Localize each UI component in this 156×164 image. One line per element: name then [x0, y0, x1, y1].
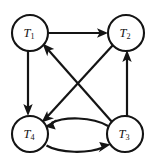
edge-t1-to-t2 [48, 28, 108, 37]
edge-t3-to-t1-line [48, 49, 113, 122]
node-t2[interactable]: T2 [108, 15, 144, 51]
node-t4-subscript: 4 [30, 133, 34, 142]
edge-t4-to-t3-curve [47, 146, 104, 152]
edge-t4-to-t3 [47, 142, 111, 152]
node-t1-subscript: 1 [30, 32, 34, 41]
edge-t3-to-t4-curve [52, 118, 109, 126]
edge-t2-to-t4-line [47, 45, 113, 117]
node-t3[interactable]: T3 [107, 116, 143, 152]
node-t1[interactable]: T1 [12, 15, 48, 51]
graph-svg-canvas: T1 T2 T3 T4 [0, 0, 156, 164]
edge-t3-to-t4 [45, 118, 109, 129]
node-t3-subscript: 3 [125, 133, 129, 142]
node-t2-subscript: 2 [126, 32, 130, 41]
edge-t3-to-t2 [122, 50, 131, 116]
edge-t1-to-t4 [23, 51, 32, 116]
node-t4[interactable]: T4 [12, 116, 48, 152]
directed-graph-diagram: T1 T2 T3 T4 [0, 0, 156, 164]
